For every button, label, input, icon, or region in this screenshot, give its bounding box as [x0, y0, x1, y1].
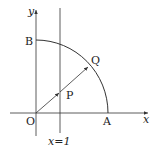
origin-label: O: [26, 115, 35, 128]
vector-op: [36, 93, 59, 113]
diagram-canvas: y B Q P O A x x=1: [0, 0, 154, 153]
point-p-label: P: [66, 89, 74, 102]
vector-pq: [60, 67, 88, 92]
point-b-label: B: [25, 35, 33, 48]
point-q-label: Q: [91, 54, 100, 67]
y-axis-label: y: [27, 5, 35, 18]
line-x-equals-1-label: x=1: [48, 135, 70, 148]
quarter-circle-arc: [36, 40, 108, 113]
point-a-label: A: [102, 115, 112, 128]
x-axis-label: x: [143, 113, 150, 126]
